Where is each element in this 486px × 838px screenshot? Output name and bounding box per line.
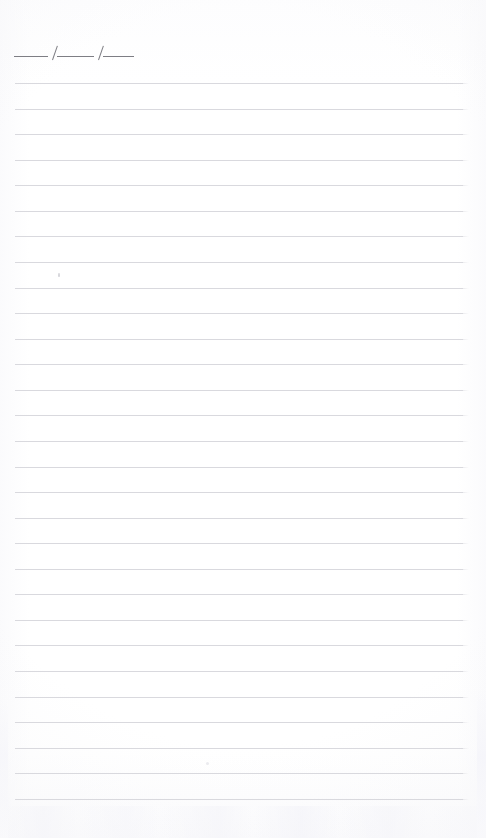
notebook-page (0, 0, 486, 838)
ruled-line[interactable] (15, 697, 463, 698)
ruled-line[interactable] (15, 83, 463, 84)
ruled-line[interactable] (15, 722, 463, 723)
ruled-line[interactable] (15, 262, 463, 263)
ruled-line[interactable] (15, 518, 463, 519)
ruled-line[interactable] (15, 160, 463, 161)
ruled-line[interactable] (15, 620, 463, 621)
ruled-line[interactable] (15, 288, 463, 289)
ruled-line[interactable] (15, 236, 463, 237)
ruled-line[interactable] (15, 313, 463, 314)
ruled-line[interactable] (15, 773, 463, 774)
ruled-line[interactable] (15, 671, 463, 672)
ruled-line[interactable] (15, 569, 463, 570)
ruled-line[interactable] (15, 543, 463, 544)
ruled-lines-area (0, 0, 486, 838)
ruled-line[interactable] (15, 185, 463, 186)
ruled-line[interactable] (15, 364, 463, 365)
ruled-line[interactable] (15, 339, 463, 340)
ruled-line[interactable] (15, 594, 463, 595)
ruled-line[interactable] (15, 415, 463, 416)
ruled-line[interactable] (15, 109, 463, 110)
ruled-line[interactable] (15, 441, 463, 442)
ruled-line[interactable] (15, 748, 463, 749)
ruled-line[interactable] (15, 645, 463, 646)
ruled-line[interactable] (15, 134, 463, 135)
ruled-line[interactable] (15, 211, 463, 212)
ruled-line[interactable] (15, 799, 463, 800)
ruled-line[interactable] (15, 467, 463, 468)
ruled-line[interactable] (15, 390, 463, 391)
ruled-line[interactable] (15, 492, 463, 493)
